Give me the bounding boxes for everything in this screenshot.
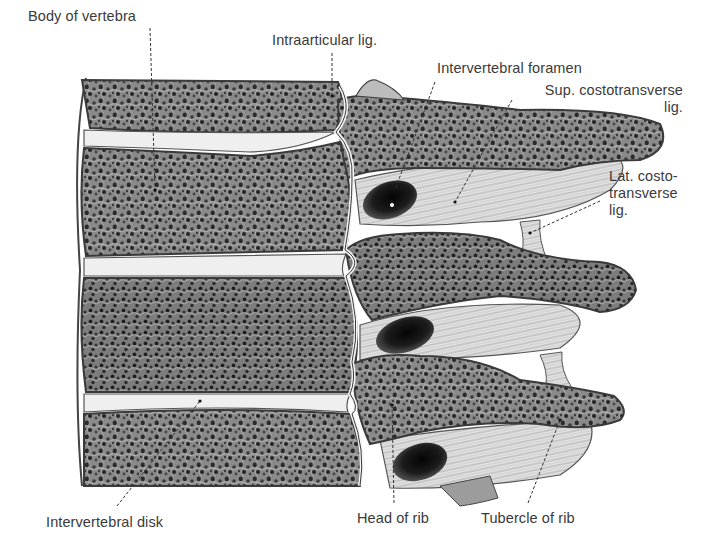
ribs <box>336 80 663 506</box>
leader-dot-body-of-vertebra <box>153 188 156 191</box>
label-intraarticular-lig: Intraarticular lig. <box>272 32 377 49</box>
vertebral-body-2 <box>81 142 349 256</box>
label-lat-costotransverse-lig: Lat. costo- transverse lig. <box>609 168 678 219</box>
label-intervertebral-foramen: Intervertebral foramen <box>437 60 582 77</box>
intervertebral-disk-2 <box>84 254 346 276</box>
vertebral-body-3 <box>81 278 357 392</box>
leader-dot-intraarticular-lig <box>330 94 333 97</box>
label-body-of-vertebra: Body of vertebra <box>28 8 136 25</box>
articular-process <box>356 80 404 100</box>
label-tubercle-of-rib: Tubercle of rib <box>481 510 575 527</box>
leader-dot-intervertebral-foramen <box>393 188 396 191</box>
label-intervertebral-disk: Intervertebral disk <box>46 514 163 531</box>
foramen-highlight <box>390 203 394 207</box>
leader-dot-intervertebral-disk <box>198 399 201 402</box>
leader-dot-sup-costotransverse-lig <box>453 200 456 203</box>
vertebral-column <box>77 78 362 486</box>
leader-dot-lat-costotransverse-lig <box>528 231 531 234</box>
leader-dot-tubercle-of-rib <box>558 418 561 421</box>
vertebral-body-1 <box>82 80 342 133</box>
leader-dot-head-of-rib <box>390 403 393 406</box>
label-head-of-rib: Head of rib <box>357 510 429 527</box>
label-sup-costotransverse-lig: Sup. costotransverse lig. <box>520 82 683 116</box>
vertebral-body-4 <box>84 410 362 486</box>
